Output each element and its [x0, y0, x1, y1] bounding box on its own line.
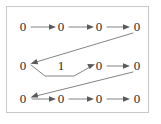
edge-r2c1-to-r2c2 — [69, 96, 94, 101]
cell-r1c3: 0 — [130, 59, 144, 72]
edge-r0c2-to-r0c3 — [107, 24, 130, 29]
edge-r0c3-to-r1c0-wrap-diagonal — [31, 33, 134, 64]
cell-r0c1: 0 — [54, 20, 68, 33]
figure-root: 0 0 0 0 0 1 0 0 0 0 0 0 — [0, 0, 161, 124]
cell-r0c3: 0 — [130, 20, 144, 33]
cell-r0c2: 0 — [92, 20, 106, 33]
cell-r2c0: 0 — [16, 92, 30, 105]
cell-r2c3: 0 — [130, 92, 144, 105]
edge-r2c2-to-r2c3 — [107, 96, 130, 101]
cell-r2c1: 0 — [54, 92, 68, 105]
edge-r1c2-to-r1c3 — [107, 63, 130, 68]
edge-r0c0-to-r0c1 — [31, 24, 56, 29]
cell-r1c1: 1 — [54, 59, 68, 72]
cell-r2c2: 0 — [92, 92, 106, 105]
edge-r0c1-to-r0c2 — [69, 24, 94, 29]
cell-r1c2: 0 — [92, 59, 106, 72]
cell-r0c0: 0 — [16, 20, 30, 33]
cell-r1c0: 0 — [16, 59, 30, 72]
